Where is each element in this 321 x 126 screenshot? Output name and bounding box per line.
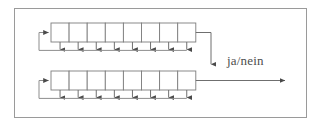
lower-register-taps xyxy=(60,90,187,98)
diagram-canvas: ja/nein xyxy=(0,0,321,126)
lower-cell-5 xyxy=(123,71,141,90)
lower-cell-2 xyxy=(69,71,87,90)
shift-register-diagram: ja/nein xyxy=(0,0,321,126)
lower-register-cells xyxy=(51,71,196,90)
upper-cell-4 xyxy=(105,23,123,42)
lower-cell-3 xyxy=(87,71,105,90)
upper-cell-6 xyxy=(142,23,160,42)
upper-register xyxy=(39,23,211,64)
upper-cell-1 xyxy=(51,23,69,42)
lower-cell-1 xyxy=(51,71,69,90)
lower-cell-8 xyxy=(178,71,196,90)
upper-cell-2 xyxy=(69,23,87,42)
lower-cell-7 xyxy=(160,71,178,90)
decision-output-label: ja/nein xyxy=(226,53,264,68)
upper-cell-8 xyxy=(178,23,196,42)
upper-cell-7 xyxy=(160,23,178,42)
upper-register-cells xyxy=(51,23,196,42)
lower-register xyxy=(39,71,285,98)
lower-cell-4 xyxy=(105,71,123,90)
upper-cell-3 xyxy=(87,23,105,42)
lower-cell-6 xyxy=(142,71,160,90)
upper-cell-5 xyxy=(123,23,141,42)
upper-output-wire xyxy=(196,33,211,65)
upper-register-taps xyxy=(60,42,187,50)
